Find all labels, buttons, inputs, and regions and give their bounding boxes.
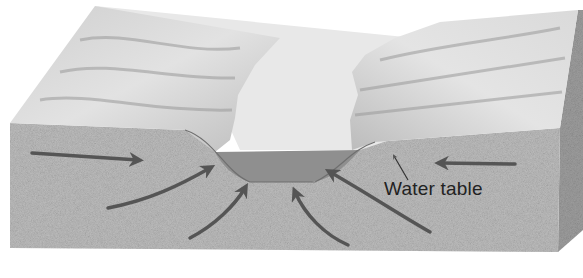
arrow-right-horizontal xyxy=(440,163,515,164)
water-table-label: Water table xyxy=(384,178,483,200)
groundwater-diagram xyxy=(0,0,583,278)
